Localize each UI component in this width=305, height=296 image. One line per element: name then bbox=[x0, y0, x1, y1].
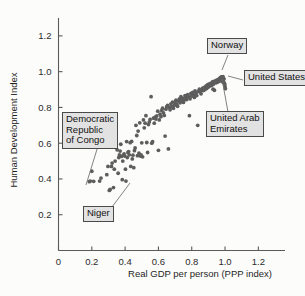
data-point bbox=[142, 118, 146, 122]
data-point bbox=[130, 140, 134, 144]
data-point bbox=[162, 114, 166, 118]
y-tick-label: 1.2 bbox=[38, 30, 51, 41]
data-point bbox=[113, 159, 117, 163]
x-tick-label: 0.8 bbox=[185, 256, 198, 267]
callout-united-arab-emirates[interactable]: United ArabEmirates bbox=[206, 111, 264, 137]
data-point bbox=[124, 167, 128, 171]
data-point bbox=[140, 141, 144, 145]
data-point bbox=[157, 148, 161, 152]
data-point bbox=[148, 118, 152, 122]
data-point bbox=[144, 114, 148, 118]
data-point bbox=[112, 186, 116, 190]
leader-line-congo bbox=[86, 146, 98, 185]
data-point bbox=[157, 118, 161, 122]
callout-congo-line3: of Congo bbox=[66, 134, 105, 145]
x-tick-label: 1.0 bbox=[218, 256, 231, 267]
data-point bbox=[120, 178, 124, 182]
y-tick-label: 0.6 bbox=[38, 138, 51, 149]
data-point bbox=[151, 140, 155, 144]
callout-congo-line2: Republic bbox=[66, 124, 103, 135]
leader-line-norway bbox=[222, 55, 228, 70]
x-axis-tick-labels: 00.20.40.60.81.01.2 bbox=[56, 256, 265, 267]
data-point bbox=[176, 104, 180, 108]
data-point bbox=[131, 153, 135, 157]
data-point bbox=[134, 123, 138, 127]
data-point bbox=[132, 166, 136, 170]
y-tick-label: 0.4 bbox=[38, 173, 51, 184]
data-point bbox=[163, 134, 167, 138]
data-point bbox=[110, 165, 114, 169]
data-point bbox=[125, 140, 129, 144]
data-point bbox=[161, 106, 165, 110]
data-point bbox=[127, 150, 131, 154]
data-point bbox=[105, 173, 109, 177]
data-point bbox=[141, 155, 145, 159]
callout-congo-line1: Democratic bbox=[66, 113, 114, 124]
data-point bbox=[130, 157, 134, 161]
data-point bbox=[135, 134, 139, 138]
data-point bbox=[146, 151, 150, 155]
data-point bbox=[108, 188, 112, 192]
data-point bbox=[136, 129, 140, 133]
data-point bbox=[116, 171, 120, 175]
data-point bbox=[159, 115, 163, 119]
callout-uae-line1: United Arab bbox=[210, 112, 260, 123]
y-axis-tick-labels: 0.20.40.60.81.01.2 bbox=[38, 30, 51, 220]
data-point bbox=[88, 179, 92, 183]
data-point bbox=[133, 146, 137, 150]
data-point bbox=[138, 121, 142, 125]
data-point bbox=[127, 153, 131, 157]
data-point bbox=[155, 114, 159, 118]
callout-democratic-republic-of-congo[interactable]: DemocraticRepublicof Congo bbox=[62, 112, 118, 149]
data-point bbox=[167, 147, 171, 151]
data-point bbox=[222, 77, 226, 81]
data-point bbox=[145, 141, 149, 145]
callout-uae-line2: Emirates bbox=[210, 123, 247, 134]
data-point bbox=[124, 179, 128, 183]
plot-area: 00.20.40.60.81.01.2 0.20.40.60.81.01.2 R… bbox=[0, 0, 305, 296]
data-point bbox=[149, 95, 153, 99]
y-tick-label: 0.2 bbox=[38, 209, 51, 220]
x-tick-label: 0.4 bbox=[119, 256, 132, 267]
data-point bbox=[106, 165, 110, 169]
x-axis-title: Real GDP per person (PPP index) bbox=[128, 268, 272, 279]
data-point bbox=[118, 149, 122, 153]
data-point bbox=[152, 121, 156, 125]
data-point bbox=[211, 87, 215, 91]
data-point bbox=[92, 179, 96, 183]
callout-united-states[interactable]: United States bbox=[244, 70, 305, 86]
data-point bbox=[142, 126, 146, 130]
data-point bbox=[99, 176, 103, 180]
data-point bbox=[196, 123, 200, 127]
leader-line-united-states bbox=[228, 76, 243, 80]
x-tick-label: 1.2 bbox=[252, 256, 265, 267]
y-axis-title: Human Development Index bbox=[8, 72, 19, 187]
callout-norway[interactable]: Norway bbox=[207, 38, 247, 54]
data-point bbox=[168, 108, 172, 112]
data-point bbox=[143, 121, 147, 125]
x-tick-label: 0.6 bbox=[152, 256, 165, 267]
x-tick-label: 0 bbox=[56, 256, 61, 267]
data-point bbox=[156, 109, 160, 113]
scatter-chart-figure: 00.20.40.60.81.01.2 0.20.40.60.81.01.2 R… bbox=[0, 0, 305, 296]
data-point bbox=[112, 167, 116, 171]
callout-niger[interactable]: Niger bbox=[83, 206, 114, 222]
x-axis-ticks bbox=[59, 247, 259, 251]
y-tick-label: 0.8 bbox=[38, 102, 51, 113]
data-point bbox=[195, 94, 199, 98]
x-tick-label: 0.2 bbox=[85, 256, 98, 267]
data-point bbox=[121, 159, 125, 163]
data-point bbox=[119, 142, 123, 146]
data-point bbox=[188, 114, 192, 118]
y-tick-label: 1.0 bbox=[38, 66, 51, 77]
data-point bbox=[199, 92, 203, 96]
